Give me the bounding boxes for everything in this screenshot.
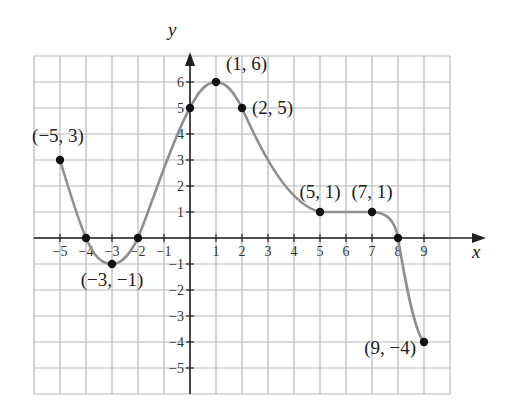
x-tick-label: −5: [53, 244, 68, 259]
data-point: [394, 234, 402, 242]
y-tick-label: 1: [177, 205, 184, 220]
x-tick-label: 4: [291, 244, 298, 259]
x-tick-label: 5: [317, 244, 324, 259]
x-tick-label: 2: [239, 244, 246, 259]
point-labels: (−5, 3)(−3, −1)(1, 6)(2, 5)(5, 1)(7, 1)(…: [32, 53, 416, 359]
axes: x y: [34, 19, 486, 394]
function-graph: x y −5−4−3−2−1123456789654321−1−2−3−4−5 …: [0, 0, 510, 412]
y-tick-label: −5: [169, 361, 184, 376]
data-point: [238, 104, 246, 112]
x-tick-label: −3: [105, 244, 120, 259]
point-label: (9, −4): [364, 337, 416, 359]
data-point: [186, 104, 194, 112]
point-label: (7, 1): [351, 181, 392, 203]
x-tick-label: 6: [343, 244, 350, 259]
data-point: [56, 156, 64, 164]
point-label: (−3, −1): [81, 269, 144, 291]
data-point: [420, 338, 428, 346]
y-tick-label: −3: [169, 309, 184, 324]
x-tick-label: 9: [421, 244, 428, 259]
x-tick-label: 7: [369, 244, 376, 259]
point-label: (1, 6): [226, 53, 267, 75]
x-axis-title: x: [471, 241, 481, 262]
y-tick-label: −2: [169, 283, 184, 298]
data-point: [316, 208, 324, 216]
y-tick-label: 6: [177, 75, 184, 90]
point-label: (−5, 3): [32, 125, 84, 147]
data-point: [212, 78, 220, 86]
point-label: (5, 1): [299, 181, 340, 203]
x-tick-label: 3: [265, 244, 272, 259]
y-tick-label: 2: [177, 179, 184, 194]
x-tick-label: 1: [213, 244, 220, 259]
data-point: [134, 234, 142, 242]
point-label: (2, 5): [252, 97, 293, 119]
y-axis-title: y: [166, 19, 177, 40]
data-point: [368, 208, 376, 216]
data-point: [108, 260, 116, 268]
y-axis-arrow-icon: [185, 52, 195, 66]
y-tick-label: −1: [169, 257, 184, 272]
data-point: [82, 234, 90, 242]
tick-labels: −5−4−3−2−1123456789654321−1−2−3−4−5: [53, 75, 428, 376]
y-tick-label: 5: [177, 101, 184, 116]
y-tick-label: 3: [177, 153, 184, 168]
y-tick-label: −4: [169, 335, 184, 350]
